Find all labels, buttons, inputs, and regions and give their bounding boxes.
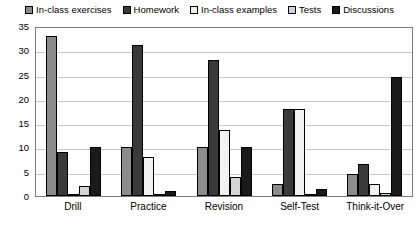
legend-item[interactable]: In-class examples — [190, 5, 277, 15]
bar[interactable] — [272, 184, 283, 196]
x-axis-tick-label: Practice — [111, 200, 187, 218]
legend-label: In-class exercises — [36, 5, 112, 15]
y-axis-tick-label: 0 — [24, 192, 29, 202]
bar[interactable] — [197, 147, 208, 196]
bar-group — [337, 28, 412, 196]
y-axis-tick-label: 10 — [18, 144, 29, 154]
y-axis-tick-label: 20 — [18, 95, 29, 105]
x-axis-tick-label: Self-Test — [262, 200, 338, 218]
y-axis-tick-label: 5 — [24, 168, 29, 178]
bar[interactable] — [369, 184, 380, 196]
bar[interactable] — [241, 147, 252, 196]
x-axis-tick-label: Revision — [186, 200, 262, 218]
y-axis: 35302520151050 — [0, 22, 33, 202]
bar[interactable] — [219, 130, 230, 196]
bar-group — [262, 28, 337, 196]
legend-label: Homework — [134, 5, 179, 15]
y-axis-tick-label: 35 — [18, 22, 29, 32]
bar[interactable] — [380, 193, 391, 196]
bar[interactable] — [57, 152, 68, 196]
bar[interactable] — [358, 164, 369, 196]
legend-item[interactable]: Discussions — [332, 5, 394, 15]
chart-legend: In-class exercisesHomeworkIn-class examp… — [0, 2, 419, 17]
bar[interactable] — [79, 186, 90, 196]
bar-groups — [36, 28, 412, 196]
bar[interactable] — [121, 147, 132, 196]
x-axis-tick-label: Drill — [35, 200, 111, 218]
plot-area — [35, 27, 413, 197]
legend-item[interactable]: Homework — [123, 5, 179, 15]
x-axis-tick-label: Think-it-Over — [337, 200, 413, 218]
legend-label: In-class examples — [201, 5, 277, 15]
bar[interactable] — [154, 194, 165, 196]
bar[interactable] — [165, 191, 176, 196]
bar[interactable] — [391, 77, 402, 196]
bar[interactable] — [316, 189, 327, 196]
y-axis-tick-label: 15 — [18, 119, 29, 129]
bar[interactable] — [208, 60, 219, 196]
bar[interactable] — [294, 109, 305, 196]
x-axis: DrillPracticeRevisionSelf-TestThink-it-O… — [35, 200, 413, 218]
legend-label: Tests — [299, 5, 321, 15]
bar[interactable] — [68, 194, 79, 196]
dark-gray-square-icon — [123, 6, 131, 14]
bar[interactable] — [230, 177, 241, 196]
bar[interactable] — [46, 36, 57, 196]
bar[interactable] — [90, 147, 101, 196]
white-square-icon — [190, 6, 198, 14]
gray-hatched-square-icon — [25, 6, 33, 14]
bar-group — [186, 28, 261, 196]
bar-chart: In-class exercisesHomeworkIn-class examp… — [0, 0, 419, 231]
bar[interactable] — [283, 109, 294, 196]
bar[interactable] — [305, 194, 316, 196]
y-axis-tick-label: 30 — [18, 47, 29, 57]
bar[interactable] — [347, 174, 358, 196]
legend-label: Discussions — [343, 5, 394, 15]
light-gray-square-icon — [288, 6, 296, 14]
black-square-icon — [332, 6, 340, 14]
bar[interactable] — [143, 157, 154, 196]
bar-group — [111, 28, 186, 196]
bar[interactable] — [132, 45, 143, 196]
legend-item[interactable]: Tests — [288, 5, 321, 15]
bar-group — [36, 28, 111, 196]
y-axis-tick-label: 25 — [18, 71, 29, 81]
legend-item[interactable]: In-class exercises — [25, 5, 112, 15]
